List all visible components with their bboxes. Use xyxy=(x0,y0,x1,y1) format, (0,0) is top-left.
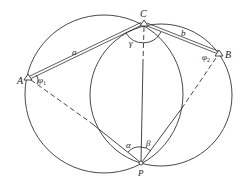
line-ap-solid xyxy=(90,122,140,162)
label-angle-beta: β xyxy=(145,138,151,148)
label-b-point: B xyxy=(225,49,231,60)
line-cp-dashed xyxy=(143,27,144,62)
label-c-point: C xyxy=(140,8,147,19)
line-bp-solid xyxy=(142,108,182,162)
label-angle-phi2: φ2 xyxy=(202,52,210,63)
label-p-point: P xyxy=(137,168,144,178)
station-a-triangle xyxy=(24,74,32,80)
circle-cbp xyxy=(90,24,232,166)
label-segment-b: b xyxy=(181,28,186,38)
point-p-marker xyxy=(139,161,143,165)
segment-a-double-line xyxy=(30,23,142,79)
label-segment-a: a xyxy=(72,47,77,57)
label-angle-gamma: γ xyxy=(129,38,133,48)
label-a-point: A xyxy=(16,75,24,86)
resection-diagram: A C B P a b γ α β φ1 φ2 xyxy=(0,0,244,187)
line-bp-dashed xyxy=(182,58,216,108)
station-c-triangle xyxy=(140,20,148,26)
line-ap-dashed xyxy=(31,80,90,122)
circle-acp xyxy=(25,15,183,173)
label-angle-alpha: α xyxy=(126,140,131,150)
label-angle-phi1: φ1 xyxy=(38,75,46,86)
